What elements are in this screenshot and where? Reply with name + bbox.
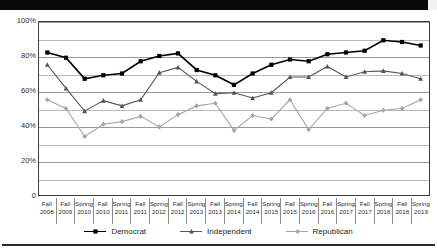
data-point-marker [45,97,50,102]
tick-season: Spring [337,200,355,208]
series-independent [45,62,423,113]
tick-season: Spring [75,200,93,208]
legend-swatch-diamond-icon [286,227,308,236]
data-point-marker [288,57,292,61]
tick-year: 2012 [169,208,187,216]
legend-swatch-square-icon [84,227,106,236]
tick-year: 2016 [319,208,337,216]
legend-label: Independent [207,227,252,236]
legend-marker-icon [187,227,196,236]
tick-season: Fall [393,200,411,208]
data-point-marker [400,40,404,44]
data-point-marker [157,54,161,58]
data-point-marker [325,64,330,69]
data-point-marker [83,77,87,81]
y-axis: 100%80%60%40%20%0 [0,12,36,212]
bottom-divider [2,244,435,246]
x-axis-tick-label: Fall2013 [205,198,224,224]
data-point-marker [362,113,367,118]
y-axis-tick-label: 60% [2,87,36,95]
data-point-marker [295,229,300,234]
data-point-marker [120,71,124,75]
tick-season: Spring [262,200,280,208]
x-axis-tick-label: Spring2017 [336,198,355,224]
series-democrat [45,38,423,87]
data-point-marker [139,59,143,63]
tick-season: Fall [38,200,56,208]
series-line [47,40,420,85]
x-axis-tick-label: Spring2015 [261,198,280,224]
legend-item-republican[interactable]: Republican [286,227,353,236]
data-point-marker [195,68,199,72]
y-axis-tick-label: 100% [2,17,36,25]
data-point-marker [101,98,106,103]
tick-year: 2010 [94,208,112,216]
tick-season: Spring [113,200,131,208]
tick-season: Fall [281,200,299,208]
data-point-marker [189,229,194,234]
top-black-bar [0,0,437,10]
data-point-marker [45,62,50,67]
series-republican [45,97,423,139]
x-axis-tick-label: Fall2016 [318,198,337,224]
data-point-marker [344,50,348,54]
x-axis-tick-label: Fall2008 [38,198,56,224]
tick-season: Spring [412,200,430,208]
data-point-marker [325,52,329,56]
x-axis-tick-label: Fall2011 [130,198,149,224]
tick-season: Fall [206,200,224,208]
data-point-marker [418,97,423,102]
tick-year: 2014 [244,208,262,216]
legend-item-democrat[interactable]: Democrat [84,227,146,236]
tick-season: Spring [187,200,205,208]
legend-item-independent[interactable]: Independent [180,227,252,236]
data-point-marker [101,73,105,77]
data-point-marker [232,83,236,87]
data-point-marker [307,59,311,63]
chart-series-layer [38,21,430,196]
tick-season: Fall [131,200,149,208]
x-axis-tick-label: Fall2017 [355,198,374,224]
data-point-marker [64,56,68,60]
data-point-marker [94,229,98,233]
tick-year: 2009 [57,208,75,216]
y-axis-tick-label: 40% [2,122,36,130]
x-axis-tick-label: Fall2012 [168,198,187,224]
x-axis-tick-label: Fall2009 [56,198,75,224]
tick-season: Spring [150,200,168,208]
tick-season: Spring [375,200,393,208]
x-axis-tick-label: Spring2014 [224,198,243,224]
tick-season: Fall [169,200,187,208]
x-axis-tick-label: Spring2012 [149,198,168,224]
x-axis-tick-label: Spring2018 [374,198,393,224]
tick-year: 2017 [356,208,374,216]
tick-year: 2012 [150,208,168,216]
legend-marker-icon [91,227,100,236]
data-point-marker [120,119,125,124]
y-axis-tick-label: 80% [2,52,36,60]
data-point-marker [344,101,349,106]
data-point-marker [381,38,385,42]
y-axis-tick-label: 20% [2,157,36,165]
data-point-marker [363,49,367,53]
data-point-marker [213,73,217,77]
x-axis-tick-label: Spring2011 [112,198,131,224]
tick-year: 2011 [113,208,131,216]
tick-year: 2018 [393,208,411,216]
data-point-marker [269,63,273,67]
data-point-marker [138,114,143,119]
x-axis-tick-label: Spring2010 [74,198,93,224]
tick-year: 2010 [75,208,93,216]
legend-swatch-triangle-icon [180,227,202,236]
tick-year: 2018 [375,208,393,216]
data-point-marker [381,108,386,113]
data-point-marker [400,106,405,111]
tick-year: 2013 [187,208,205,216]
legend-label: Democrat [111,227,146,236]
data-point-marker [251,71,255,75]
tick-season: Fall [244,200,262,208]
tick-season: Fall [319,200,337,208]
data-point-marker [176,51,180,55]
tick-year: 2014 [225,208,243,216]
y-axis-tick-label: 0 [2,192,36,200]
